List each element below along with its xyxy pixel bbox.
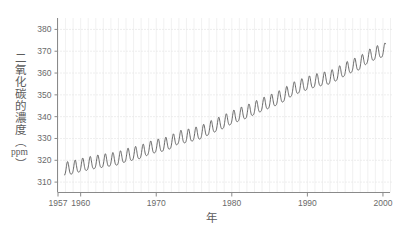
x-tick-label: 1990 bbox=[298, 198, 317, 208]
y-tick-label: 350 bbox=[37, 90, 51, 100]
co2-data-line bbox=[64, 43, 385, 175]
y-tick-label: 320 bbox=[37, 155, 51, 165]
x-tick-label: 1957 bbox=[49, 198, 68, 208]
x-tick-label: 1980 bbox=[222, 198, 241, 208]
y-tick-label: 310 bbox=[37, 177, 51, 187]
x-tick-label: 2000 bbox=[373, 198, 392, 208]
y-tick-label: 330 bbox=[37, 133, 51, 143]
horizontal-gridlines bbox=[58, 29, 393, 182]
x-tick-label: 1960 bbox=[71, 198, 90, 208]
chart-canvas: 310320330340350360370380 195719601970198… bbox=[0, 0, 406, 232]
vertical-gridlines bbox=[58, 18, 391, 193]
y-tick-label: 340 bbox=[37, 112, 51, 122]
co2-keeling-curve-chart: 二氧化碳的濃度（ppm） 年 310320330340350360370380 … bbox=[0, 0, 406, 232]
y-tick-label: 360 bbox=[37, 68, 51, 78]
y-tick-label: 370 bbox=[37, 46, 51, 56]
x-tick-marks bbox=[58, 193, 383, 197]
y-tick-labels: 310320330340350360370380 bbox=[37, 24, 51, 187]
y-tick-label: 380 bbox=[37, 24, 51, 34]
x-tick-labels: 195719601970198019902000 bbox=[49, 198, 393, 208]
x-tick-label: 1970 bbox=[147, 198, 166, 208]
